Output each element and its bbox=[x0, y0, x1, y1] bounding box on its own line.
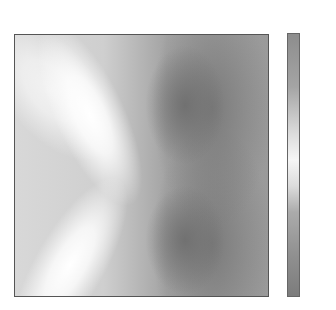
dark-region bbox=[145, 185, 225, 295]
dark-region bbox=[145, 45, 225, 165]
heatmap-plot-area bbox=[14, 34, 269, 297]
colorbar bbox=[287, 33, 300, 297]
